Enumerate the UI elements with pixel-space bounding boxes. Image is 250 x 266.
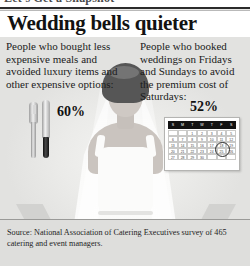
calendar-day-empty bbox=[207, 154, 217, 160]
left-stat-value: 60% bbox=[57, 104, 85, 120]
knife-blade bbox=[42, 100, 50, 138]
cropped-headline-above: Let's Get a Snapshot bbox=[0, 0, 250, 7]
calendar-day-29: 29 bbox=[187, 154, 197, 160]
calendar-weekday-header: SMTWTFS bbox=[168, 121, 236, 129]
calendar-weekday-6: S bbox=[226, 121, 236, 129]
page-title: Wedding bells quieter bbox=[7, 12, 245, 34]
fork-head bbox=[29, 102, 38, 124]
left-stat-description: People who bought less expensive meals a… bbox=[6, 40, 128, 90]
dress-bodice bbox=[98, 147, 153, 209]
calendar-day-empty bbox=[226, 154, 236, 160]
source-note: Source: National Association of Catering… bbox=[0, 220, 250, 266]
calendar-weekday-1: M bbox=[178, 121, 188, 129]
cropped-headline-text: Let's Get a Snapshot bbox=[4, 0, 114, 6]
top-rule bbox=[0, 7, 250, 9]
infographic-wedding-bells: Let's Get a Snapshot Wedding bells quiet… bbox=[0, 0, 250, 266]
calendar-weekday-2: T bbox=[187, 121, 197, 129]
calendar-weekday-3: W bbox=[197, 121, 207, 129]
calendar-weekday-0: S bbox=[168, 121, 178, 129]
dress-waistband bbox=[98, 211, 153, 215]
calendar-weekday-4: T bbox=[207, 121, 217, 129]
calendar-weekday-5: F bbox=[217, 121, 227, 129]
calendar-circled-date bbox=[215, 142, 230, 157]
calendar-icon: SMTWTFS 12345678910111213141516171819202… bbox=[164, 117, 240, 171]
fork-and-knife-icon bbox=[27, 100, 53, 158]
calendar-day-28: 28 bbox=[178, 154, 188, 160]
right-stat-value: 52% bbox=[190, 99, 218, 115]
calendar-day-27: 27 bbox=[168, 154, 178, 160]
calendar-day-30: 30 bbox=[197, 154, 207, 160]
knife-handle bbox=[43, 137, 49, 158]
right-stat-description: People who booked weddings on Fridays an… bbox=[140, 40, 246, 103]
fork-handle bbox=[31, 122, 36, 158]
